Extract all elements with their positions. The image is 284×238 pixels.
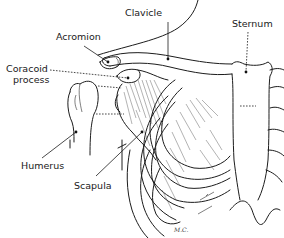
rib-cage [127, 80, 230, 238]
label-humerus: Humerus [21, 161, 64, 171]
humerus-leader [42, 132, 76, 158]
coracoid-bone [117, 69, 140, 83]
label-acromion: Acromion [56, 32, 101, 42]
artist-initials: M.C. [174, 226, 188, 233]
scapula-bone [117, 70, 168, 160]
coracoid-leader [50, 70, 128, 78]
acromion-leader [84, 46, 108, 62]
sternum-leader [246, 32, 248, 72]
label-coracoid-line2: process [13, 75, 50, 85]
diagram-drawing [0, 0, 284, 238]
shoulder-anatomy-diagram: Clavicle Acromion Coracoid process Stern… [0, 0, 284, 238]
humerus-bone [68, 81, 98, 155]
sternum-bone [232, 62, 272, 200]
label-sternum: Sternum [232, 19, 273, 29]
label-coracoid-line1: Coracoid [6, 64, 48, 74]
scapula-leader [96, 132, 142, 176]
label-scapula: Scapula [74, 181, 112, 191]
label-clavicle: Clavicle [125, 8, 162, 18]
